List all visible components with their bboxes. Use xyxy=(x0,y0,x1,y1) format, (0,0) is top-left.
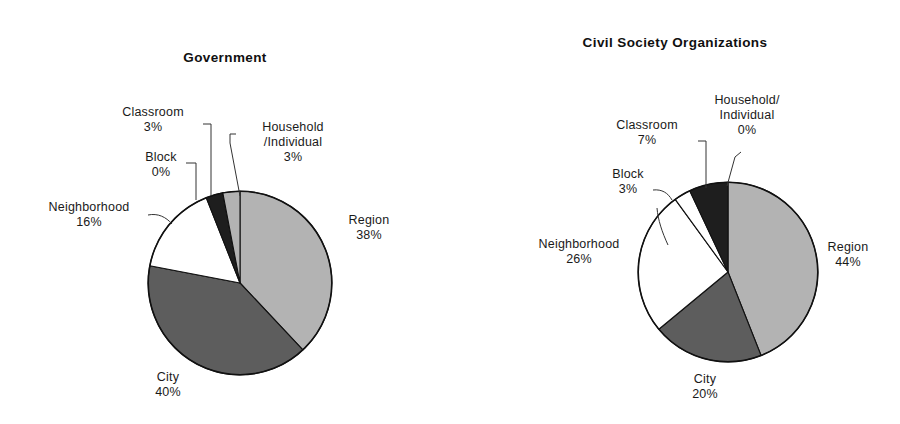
label-region-value-government: 38% xyxy=(338,228,400,243)
label-classroom-civil-society: Classroom 7% xyxy=(602,118,692,148)
label-region-government: Region 38% xyxy=(338,213,400,243)
label-city-value-civil-society: 20% xyxy=(677,387,733,402)
label-region-name-government: Region xyxy=(338,213,400,228)
label-neighborhood-civil-society: Neighborhood 26% xyxy=(520,237,638,267)
label-household-civil-society: Household/ Individual 0% xyxy=(699,93,795,138)
label-classroom-name-government: Classroom xyxy=(108,105,198,120)
label-neighborhood-name-government: Neighborhood xyxy=(30,200,148,215)
pie-chart-government xyxy=(147,190,333,376)
label-block-government: Block 0% xyxy=(136,150,186,180)
label-neighborhood-value-civil-society: 26% xyxy=(520,252,638,267)
label-classroom-value-civil-society: 7% xyxy=(602,133,692,148)
label-block-name-government: Block xyxy=(136,150,186,165)
label-block-value-government: 0% xyxy=(136,165,186,180)
label-classroom-name-civil-society: Classroom xyxy=(602,118,692,133)
label-household-value-civil-society: 0% xyxy=(699,123,795,138)
label-city-name-civil-society: City xyxy=(677,372,733,387)
pie-svg-civil-society xyxy=(637,181,819,363)
label-block-name-civil-society: Block xyxy=(603,167,653,182)
label-region-civil-society: Region 44% xyxy=(817,240,879,270)
label-classroom-value-government: 3% xyxy=(108,120,198,135)
label-household-government: Household /Individual 3% xyxy=(243,120,343,165)
chart-panel-civil-society: Civil Society Organizations Classroom 7%… xyxy=(450,0,900,424)
label-block-value-civil-society: 3% xyxy=(603,182,653,197)
label-neighborhood-value-government: 16% xyxy=(30,215,148,230)
label-region-value-civil-society: 44% xyxy=(817,255,879,270)
label-household-line2-civil-society: Individual xyxy=(699,108,795,123)
figure-canvas: Government Classroom 3% Block 0% Neighbo… xyxy=(0,0,900,424)
label-city-name-government: City xyxy=(140,370,196,385)
chart-panel-government: Government Classroom 3% Block 0% Neighbo… xyxy=(0,0,450,424)
label-neighborhood-government: Neighborhood 16% xyxy=(30,200,148,230)
label-region-name-civil-society: Region xyxy=(817,240,879,255)
label-block-civil-society: Block 3% xyxy=(603,167,653,197)
label-household-value-government: 3% xyxy=(243,150,343,165)
label-neighborhood-name-civil-society: Neighborhood xyxy=(520,237,638,252)
label-city-government: City 40% xyxy=(140,370,196,400)
pie-chart-civil-society xyxy=(637,181,819,363)
label-household-line1-government: Household xyxy=(243,120,343,135)
label-classroom-government: Classroom 3% xyxy=(108,105,198,135)
label-household-line1-civil-society: Household/ xyxy=(699,93,795,108)
chart-title-government: Government xyxy=(0,50,450,65)
label-household-line2-government: /Individual xyxy=(243,135,343,150)
label-city-civil-society: City 20% xyxy=(677,372,733,402)
label-city-value-government: 40% xyxy=(140,385,196,400)
chart-title-civil-society: Civil Society Organizations xyxy=(450,35,900,50)
pie-svg-government xyxy=(147,190,333,376)
